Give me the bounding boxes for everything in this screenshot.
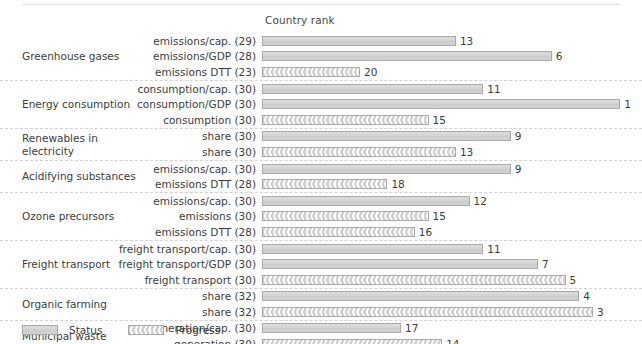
bar-value-label: 13 [460,35,473,47]
indicator-row[interactable]: generation (30)14 [0,336,642,344]
progress-bar[interactable] [262,147,456,157]
chart-rows-container: Greenhouse gasesemissions/cap. (29)13emi… [0,33,642,344]
legend-item[interactable]: Status [22,324,102,336]
progress-bar[interactable] [262,275,566,285]
bar-area: 15 [262,112,642,128]
bar-value-label: 9 [515,163,522,175]
progress-bar[interactable] [262,227,415,237]
bar-area: 7 [262,256,642,272]
indicator-row[interactable]: emissions DTT (28)16 [0,224,642,240]
status-bar[interactable] [262,84,483,94]
status-bar[interactable] [262,291,579,301]
category-group: Ozone precursorsemissions/cap. (30)12emi… [0,193,642,241]
progress-bar[interactable] [262,67,360,77]
legend-label: Progress [175,324,220,336]
status-bar[interactable] [262,244,483,254]
indicator-label: consumption (30) [80,114,256,126]
bar-value-label: 13 [460,146,473,158]
indicator-row[interactable]: emissions/GDP (28)6 [0,49,642,65]
progress-bar[interactable] [262,307,593,317]
indicator-row[interactable]: freight transport/cap. (30)11 [0,241,642,257]
indicator-label: emissions/cap. (30) [80,163,256,175]
bar-area: 15 [262,209,642,225]
category-group: Greenhouse gasesemissions/cap. (29)13emi… [0,33,642,81]
status-bar[interactable] [262,164,511,174]
indicator-row[interactable]: share (32)3 [0,304,642,320]
indicator-row[interactable]: emissions DTT (23)20 [0,64,642,80]
bar-value-label: 3 [597,306,604,318]
bar-value-label: 9 [515,130,522,142]
bar-value-label: 4 [583,290,590,302]
indicator-label: consumption/cap. (30) [80,83,256,95]
category-group: Organic farmingshare (32)4share (32)3 [0,289,642,321]
legend-progress-swatch [128,325,164,335]
indicator-label: share (32) [80,290,256,302]
bar-area: 11 [262,81,642,97]
indicator-label: emissions (30) [80,210,256,222]
indicator-label: share (30) [80,146,256,158]
indicator-label: emissions/GDP (28) [80,50,256,62]
indicator-row[interactable]: emissions/cap. (29)13 [0,33,642,49]
bar-area: 5 [262,272,642,288]
chart-legend: StatusProgress [22,324,220,336]
bar-area: 13 [262,144,642,160]
legend-status-swatch [22,325,58,335]
indicator-label: emissions/cap. (29) [80,35,256,47]
category-group: Freight transportfreight transport/cap. … [0,241,642,289]
bar-value-label: 11 [487,83,500,95]
bar-value-label: 18 [391,178,404,190]
indicator-row[interactable]: consumption/cap. (30)11 [0,81,642,97]
bar-area: 12 [262,193,642,209]
progress-bar[interactable] [262,179,387,189]
indicator-row[interactable]: emissions (30)15 [0,209,642,225]
category-group: Renewables in electricityshare (30)9shar… [0,129,642,161]
legend-label: Status [69,324,102,336]
indicator-row[interactable]: freight transport (30)5 [0,272,642,288]
indicator-label: consumption/GDP (30) [80,98,256,110]
country-rank-chart: Country rank Greenhouse gasesemissions/c… [0,0,642,344]
indicator-row[interactable]: emissions/cap. (30)9 [0,161,642,177]
indicator-row[interactable]: consumption (30)15 [0,112,642,128]
status-bar[interactable] [262,131,511,141]
bar-value-label: 17 [405,322,418,334]
bar-value-label: 12 [474,195,487,207]
bar-area: 18 [262,176,642,192]
category-group: Energy consumptionconsumption/cap. (30)1… [0,81,642,129]
status-bar[interactable] [262,323,401,333]
bar-value-label: 1 [624,98,631,110]
progress-bar[interactable] [262,211,429,221]
bar-area: 3 [262,304,642,320]
indicator-row[interactable]: emissions/cap. (30)12 [0,193,642,209]
indicator-label: freight transport (30) [80,274,256,286]
status-bar[interactable] [262,36,456,46]
status-bar[interactable] [262,99,620,109]
bar-area: 9 [262,129,642,145]
indicator-row[interactable]: consumption/GDP (30)1 [0,96,642,112]
legend-item[interactable]: Progress [128,324,220,336]
bar-area: 14 [262,336,642,344]
indicator-label: emissions/cap. (30) [80,195,256,207]
indicator-row[interactable]: freight transport/GDP (30)7 [0,256,642,272]
status-bar[interactable] [262,259,538,269]
axis-title: Country rank [265,14,335,26]
progress-bar[interactable] [262,115,429,125]
indicator-row[interactable]: emissions DTT (28)18 [0,176,642,192]
indicator-label: freight transport/cap. (30) [80,243,256,255]
indicator-label: emissions DTT (28) [80,226,256,238]
status-bar[interactable] [262,196,470,206]
indicator-label: freight transport/GDP (30) [80,258,256,270]
indicator-label: share (32) [80,306,256,318]
bar-area: 11 [262,241,642,257]
bar-value-label: 14 [446,338,459,344]
progress-bar[interactable] [262,339,442,344]
top-divider [22,4,620,5]
indicator-row[interactable]: share (30)13 [0,144,642,160]
bar-value-label: 15 [433,210,446,222]
bar-value-label: 6 [556,50,563,62]
status-bar[interactable] [262,51,552,61]
indicator-row[interactable]: share (32)4 [0,289,642,305]
bar-area: 17 [262,321,642,337]
indicator-row[interactable]: share (30)9 [0,129,642,145]
indicator-label: emissions DTT (28) [80,178,256,190]
bar-area: 9 [262,161,642,177]
